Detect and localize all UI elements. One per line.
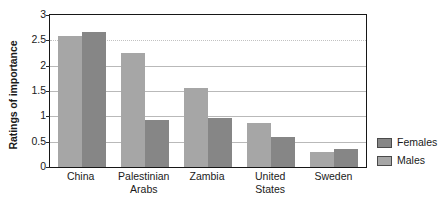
bar-group [310,15,358,167]
bar-group [184,15,232,167]
x-axis-label-sweden: Sweden [302,170,365,183]
legend-swatch-males [377,156,392,166]
chart-legend: FemalesMales [377,135,445,171]
x-axis-label-united-states: United States [239,170,302,195]
bar-united-states-males [247,123,271,167]
y-tick-label: 1.5 [22,85,46,96]
y-axis-tickmark [46,40,50,41]
bar-group [121,15,169,167]
legend-swatch-females [377,138,392,148]
y-tick-label: 0.5 [22,135,46,146]
bar-palestinian-arabs-males [121,53,145,167]
y-tick-label: 3 [22,9,46,20]
y-axis-tickmark [46,142,50,143]
y-tick-label: 0 [22,161,46,172]
bar-group [58,15,106,167]
bar-sweden-females [334,149,358,167]
legend-label-females: Females [397,137,437,148]
y-axis-tick-labels: 00.511.522.53 [22,14,46,166]
bar-zambia-females [208,118,232,167]
y-axis-tickmark [46,15,50,16]
y-tick-label: 2.5 [22,34,46,45]
bar-group [247,15,295,167]
y-axis-tickmark [46,66,50,67]
legend-item-females[interactable]: Females [377,135,445,150]
plot-area [49,14,367,168]
bar-chart-figure: Ratings of importance 00.511.522.53 Chin… [0,0,447,203]
y-axis-tickmark [46,116,50,117]
x-axis-label-palestinian-arabs: Palestinian Arabs [112,170,175,195]
y-tick-label: 1 [22,110,46,121]
bar-united-states-females [271,137,295,167]
x-axis-category-labels: ChinaPalestinian ArabsZambiaUnited State… [49,170,365,200]
y-axis-title: Ratings of importance [4,15,22,175]
y-axis-tickmark [46,91,50,92]
bar-china-females [82,32,106,167]
x-axis-label-china: China [49,170,112,183]
bar-palestinian-arabs-females [145,120,169,167]
bar-china-males [58,36,82,167]
y-tick-label: 2 [22,59,46,70]
legend-label-males: Males [397,155,425,166]
bars-layer [50,15,366,167]
y-axis-tickmark [46,167,50,168]
x-axis-label-zambia: Zambia [175,170,238,183]
bar-sweden-males [310,152,334,167]
legend-item-males[interactable]: Males [377,153,445,168]
bar-zambia-males [184,88,208,167]
